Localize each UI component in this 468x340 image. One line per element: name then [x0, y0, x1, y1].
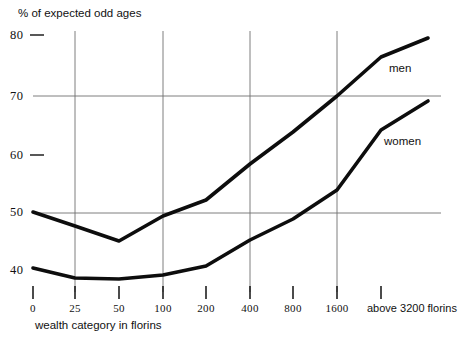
x-tick-label-25: 25 — [69, 303, 81, 314]
x-tick-label-200: 200 — [197, 303, 214, 314]
series-line-women — [33, 101, 428, 279]
y-tick-label-80: 80 — [10, 29, 23, 42]
y-tick-label-70: 70 — [10, 90, 23, 103]
x-tick-label-400: 400 — [241, 303, 258, 314]
x-tick-label-1600: 1600 — [325, 303, 348, 314]
x-axis-title: wealth category in florins — [35, 320, 162, 332]
series-label-men: men — [389, 63, 411, 75]
y-tick-label-60: 60 — [10, 149, 23, 162]
series-line-men — [33, 38, 428, 241]
chart-container: % of expected odd ages 80 70 60 50 40 0 … — [0, 0, 468, 340]
series-label-women: women — [384, 136, 421, 148]
y-axis-ticks — [30, 35, 44, 155]
chart-canvas — [0, 0, 468, 340]
gridlines-horizontal — [33, 96, 441, 213]
y-tick-label-40: 40 — [10, 264, 23, 277]
y-axis-title: % of expected odd ages — [18, 8, 141, 20]
x-axis-ticks — [33, 286, 381, 299]
gridlines-vertical — [75, 31, 337, 292]
x-tick-label-100: 100 — [154, 303, 171, 314]
x-tick-label-above-3200: above 3200 florins — [367, 303, 457, 314]
x-tick-label-800: 800 — [284, 303, 301, 314]
x-tick-label-0: 0 — [30, 303, 36, 314]
x-tick-label-50: 50 — [113, 303, 125, 314]
y-tick-label-50: 50 — [10, 206, 23, 219]
